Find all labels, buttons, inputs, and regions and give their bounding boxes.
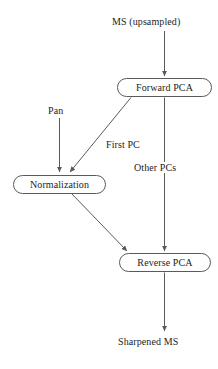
edge-forward-pca-to-normalization <box>70 98 131 173</box>
node-normalization-label: Normalization <box>30 179 89 190</box>
node-reverse-pca[interactable]: Reverse PCA <box>119 253 211 272</box>
diagram-canvas: MS (upsampled) Forward PCA Pan First PC … <box>0 0 218 369</box>
terminal-label-sharpened-ms: Sharpened MS <box>118 336 178 347</box>
edge-label-other-pcs: Other PCs <box>133 162 177 173</box>
edge-normalization-to-reverse-pca <box>72 194 127 251</box>
terminal-label-pan: Pan <box>48 105 63 116</box>
terminal-label-ms-upsampled: MS (upsampled) <box>112 16 180 27</box>
edge-label-first-pc: First PC <box>105 139 141 150</box>
node-forward-pca[interactable]: Forward PCA <box>117 78 212 97</box>
node-forward-pca-label: Forward PCA <box>136 82 193 93</box>
node-normalization[interactable]: Normalization <box>13 175 106 194</box>
node-reverse-pca-label: Reverse PCA <box>137 257 192 268</box>
